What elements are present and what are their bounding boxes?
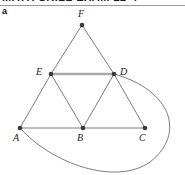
vertex-label-e: E: [36, 67, 42, 77]
graph-vertex-c: [143, 126, 148, 131]
graph-edge-d-c: [114, 74, 145, 128]
graph-edge-d-b: [83, 74, 114, 128]
edge-layer: [20, 25, 170, 172]
graph-vertex-e: [49, 72, 54, 77]
graph-edge-f-e: [51, 25, 82, 74]
header-text: MATH SKILL EXAM 22-4: [2, 0, 138, 3]
vertex-label-a: A: [13, 133, 19, 143]
graph-vertex-d: [112, 72, 117, 77]
graph-edge-e-b: [51, 74, 83, 128]
graph-edge-e-a: [20, 74, 51, 128]
vertex-label-b: B: [77, 133, 83, 143]
graph-vertex-b: [81, 126, 86, 131]
graph-vertex-f: [80, 23, 85, 28]
figure-panel: MATH SKILL EXAM 22-4 a FEDABC: [0, 0, 185, 175]
graph-edge-f-d: [82, 25, 114, 74]
vertex-label-d: D: [120, 67, 127, 77]
graph-vertex-a: [18, 126, 23, 131]
vertex-label-f: F: [78, 9, 84, 19]
graph-diagram: FEDABC: [0, 6, 185, 175]
vertex-label-c: C: [139, 133, 146, 143]
graph-canvas: [0, 6, 185, 175]
